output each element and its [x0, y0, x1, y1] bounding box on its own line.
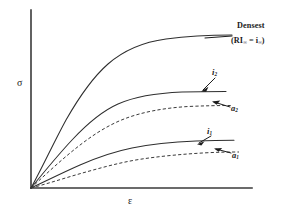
annotation-densest: Densest [237, 22, 265, 30]
figure-container: σ ε Densest (RI∞ = i∞) i2 a2 i1 a1 [0, 0, 295, 219]
axis-label-y: σ [17, 78, 23, 88]
axis-label-x: ε [128, 196, 132, 206]
formula-sub-2: ∞ [258, 39, 262, 45]
formula-prefix: (RI [231, 36, 243, 45]
leader-densest [205, 36, 232, 38]
curve-label-a1-sub: 1 [236, 154, 239, 160]
curve-label-a1: a1 [232, 151, 239, 160]
curve-densest [31, 35, 232, 188]
curve-label-i1: i1 [207, 127, 212, 136]
formula-mid: = i [247, 36, 258, 45]
leader-i2 [203, 78, 215, 90]
curve-label-a2: a2 [231, 104, 238, 113]
curve-label-i1-sub: 1 [209, 130, 212, 136]
leader-i1 [199, 136, 211, 143]
formula-sub-1: ∞ [243, 39, 247, 45]
curve-label-a2-sub: 2 [235, 107, 238, 113]
annotation-formula: (RI∞ = i∞) [231, 37, 265, 45]
curve-a1 [31, 152, 239, 188]
curve-label-i2: i2 [212, 68, 217, 77]
curve-a2 [31, 106, 231, 189]
plot-area [0, 0, 295, 219]
arrowhead-a2 [212, 101, 220, 105]
curve-i1 [31, 140, 234, 188]
formula-suffix: ) [262, 36, 265, 45]
curve-label-i2-sub: 2 [214, 71, 217, 77]
